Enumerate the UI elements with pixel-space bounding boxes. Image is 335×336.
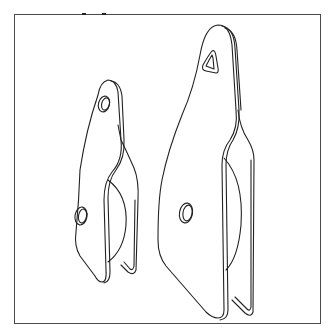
small-front-plate [76, 80, 122, 282]
small-sheave [108, 180, 126, 262]
small-block [74, 80, 139, 283]
large-block [158, 25, 254, 320]
drawing [0, 0, 335, 336]
large-top-hole [202, 51, 218, 73]
large-front-plate [158, 25, 236, 318]
